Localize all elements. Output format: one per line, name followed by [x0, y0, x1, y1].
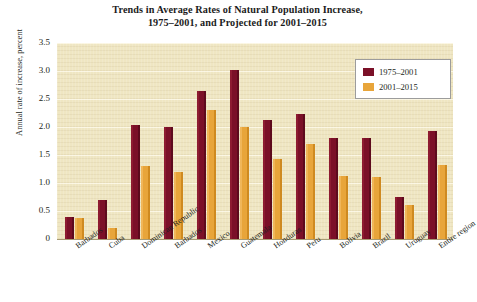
bar-group: [263, 43, 282, 239]
bar-group: [98, 43, 117, 239]
legend-label-1975-2001: 1975–2001: [379, 67, 418, 77]
bar: [141, 166, 150, 239]
bar-group: [296, 43, 315, 239]
bar: [207, 110, 216, 239]
chart-title-line-2: 1975–2001, and Projected for 2001–2015: [0, 17, 475, 30]
chart-title: Trends in Average Rates of Natural Popul…: [0, 4, 475, 29]
bar: [273, 159, 282, 239]
legend-item-2001-2015: 2001–2015: [363, 79, 450, 94]
bar-group: [197, 43, 216, 239]
bar: [197, 91, 206, 239]
bar: [428, 131, 437, 239]
bar: [395, 197, 404, 239]
bar-group: [65, 43, 84, 239]
bar: [65, 217, 74, 239]
bar-group: [230, 43, 249, 239]
y-axis-tick-label: 0.5: [16, 205, 50, 215]
x-axis-tick-labels: BarbadosCubaDominican RepublicBarbadosMe…: [0, 243, 475, 302]
legend-item-1975-2001: 1975–2001: [363, 64, 450, 79]
y-axis-tick-label: 1.0: [16, 177, 50, 187]
legend-swatch-1975-2001: [363, 68, 374, 76]
bar: [240, 127, 249, 239]
bar: [339, 176, 348, 239]
bar: [438, 165, 447, 239]
chart-legend: 1975–2001 2001–2015: [355, 59, 451, 99]
bar: [230, 70, 239, 239]
bar: [405, 205, 414, 239]
y-axis-tick-label: 0: [16, 233, 50, 243]
chart-title-line-1: Trends in Average Rates of Natural Popul…: [0, 4, 475, 17]
bar: [372, 177, 381, 239]
bar-group: [131, 43, 150, 239]
bar: [329, 138, 338, 239]
bar: [131, 125, 140, 239]
legend-label-2001-2015: 2001–2015: [379, 82, 418, 92]
y-axis-title: Annual rate of increase, percent: [15, 8, 24, 158]
bar-group: [164, 43, 183, 239]
bar: [362, 138, 371, 239]
bar: [306, 144, 315, 239]
legend-swatch-2001-2015: [363, 83, 374, 91]
bar: [296, 114, 305, 239]
bar: [263, 120, 272, 239]
bar-group: [329, 43, 348, 239]
